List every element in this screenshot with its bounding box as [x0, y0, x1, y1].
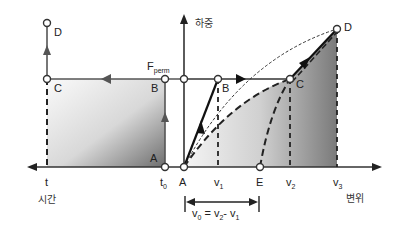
node-right-C — [287, 76, 294, 83]
right-arrow-icon-BC — [236, 74, 246, 84]
left-shaded-area — [47, 79, 165, 167]
label-left-D: D — [54, 26, 62, 38]
x-axis-left-arrow-icon — [27, 163, 37, 171]
x-axis-right-arrow-icon — [372, 163, 382, 171]
load-displacement-diagram: 하중 변위 시간 D C B A Fperm B C D A E t t0 v1… — [0, 0, 408, 240]
node-right-A — [181, 164, 188, 171]
label-right-A: A — [179, 176, 187, 188]
label-right-C: C — [296, 78, 304, 90]
tick-t: t — [45, 176, 48, 188]
dimension-equation: v0 = v2- v1 — [192, 207, 240, 221]
up-arrow-icon-CD — [43, 45, 51, 55]
y-axis-label: 하중 — [195, 17, 213, 29]
right-shaded-area — [184, 29, 337, 167]
fperm-label: Fperm — [147, 60, 170, 75]
up-arrow-icon-curve-AB — [197, 120, 205, 134]
node-left-D — [44, 20, 51, 27]
label-left-B: B — [151, 82, 158, 94]
x-axis-right-label: 변위 — [346, 192, 364, 204]
tick-v1: v1 — [214, 176, 224, 190]
label-E: E — [256, 176, 263, 188]
node-left-C — [44, 76, 51, 83]
label-right-D: D — [344, 21, 352, 33]
label-left-C: C — [54, 82, 62, 94]
node-left-A — [162, 164, 169, 171]
node-right-D — [334, 26, 341, 33]
tick-t0: t0 — [160, 176, 167, 190]
label-right-B: B — [222, 82, 229, 94]
tick-v3: v3 — [333, 176, 343, 190]
tick-v2: v2 — [286, 176, 296, 190]
dimension-left-arrow-icon — [186, 198, 195, 206]
x-axis-left-label: 시간 — [38, 194, 56, 205]
label-left-A: A — [150, 152, 158, 164]
node-right-B — [215, 76, 222, 83]
y-axis-arrow-icon — [180, 14, 188, 24]
dimension-right-arrow-icon — [249, 198, 258, 206]
node-left-B — [162, 76, 169, 83]
node-E — [257, 164, 264, 171]
node-fperm — [181, 76, 188, 83]
